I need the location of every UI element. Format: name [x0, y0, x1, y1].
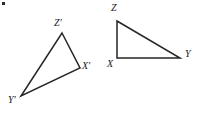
triangle-right-outline: [117, 21, 180, 58]
triangle-image-primed-shape: [21, 33, 80, 96]
vertex-label-y: Y: [185, 49, 191, 59]
triangle-preimage-right-shape: [117, 21, 180, 58]
vertex-label-x-prime: X': [82, 61, 90, 71]
vertex-label-x: X: [107, 59, 113, 69]
triangles-svg: [0, 0, 202, 115]
vertex-label-y-prime: Y': [8, 95, 16, 105]
triangle-primed-outline: [21, 33, 80, 96]
vertex-label-z-prime: Z': [54, 18, 62, 28]
geometry-figure-canvas: Z' X' Y' Z X Y: [0, 0, 202, 115]
vertex-label-z: Z: [111, 3, 117, 13]
